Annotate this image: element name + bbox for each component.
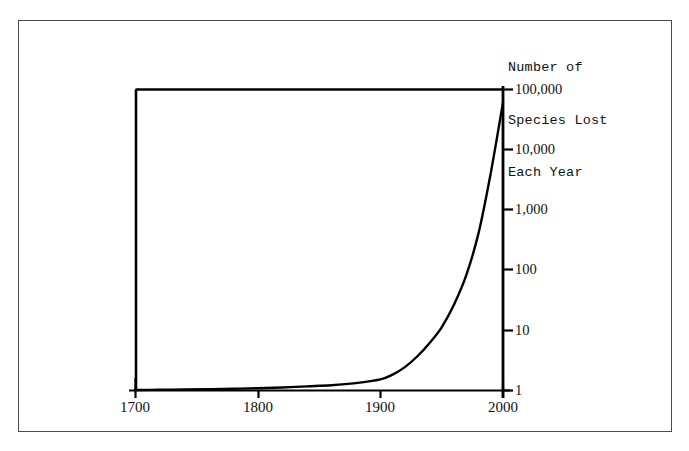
chart-title: Number of Species Lost Each Year [508, 24, 678, 217]
y-axis-label-100000: 100,000 [515, 82, 562, 97]
x-axis-label-1700: 1700 [120, 400, 150, 415]
x-axis-label-2000: 2000 [488, 400, 518, 415]
chart-title-line-2: Species Lost [508, 112, 678, 130]
chart-title-line-1: Number of [508, 59, 678, 77]
chart-title-line-3: Each Year [508, 164, 678, 182]
chart-area: Number of Species Lost Each Year 100,000… [0, 0, 689, 451]
y-axis-label-10000: 10,000 [515, 142, 555, 157]
x-axis-label-1900: 1900 [365, 400, 395, 415]
data-curve-species-lost [135, 102, 503, 390]
plot-frame [129, 86, 510, 398]
x-axis-ticks [136, 378, 504, 398]
x-axis-label-1800: 1800 [243, 400, 273, 415]
y-axis-label-1: 1 [515, 383, 522, 398]
y-axis-label-1000: 1,000 [515, 202, 548, 217]
y-axis-label-10: 10 [515, 323, 530, 338]
y-axis-label-100: 100 [515, 262, 537, 277]
figure-page: Number of Species Lost Each Year 100,000… [0, 0, 689, 451]
